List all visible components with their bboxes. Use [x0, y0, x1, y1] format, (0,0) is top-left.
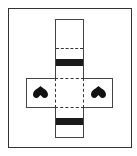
- lower-black-band: [56, 118, 83, 125]
- upper-fold-line: [56, 48, 83, 49]
- center-square-fold: [55, 78, 84, 108]
- upper-black-band: [56, 59, 83, 66]
- inverted-heart-icon-right: [91, 86, 106, 99]
- inverted-heart-icon-left: [33, 86, 48, 99]
